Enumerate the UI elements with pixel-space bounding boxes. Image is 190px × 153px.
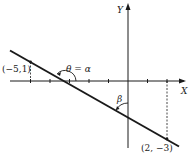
x-axis-arrow-icon [179,79,186,84]
point-a-marker [29,61,32,64]
y-axis-arrow-icon [126,3,131,10]
point-b-label: (2, −3) [141,143,173,153]
theta-label: θ = α [66,64,91,74]
x-axis-label: X [180,86,188,96]
diagram-canvas: Y X (−5,1) (2, −3) θ = α β [0,0,190,153]
y-axis-label: Y [117,5,124,15]
point-a-label: (−5,1) [2,64,31,74]
point-b-marker [166,138,169,141]
beta-label: β [116,94,122,104]
y-axis [126,3,131,148]
coordinate-diagram: Y X (−5,1) (2, −3) θ = α β [0,0,190,153]
sloped-line [10,51,179,147]
x-axis [10,79,186,84]
